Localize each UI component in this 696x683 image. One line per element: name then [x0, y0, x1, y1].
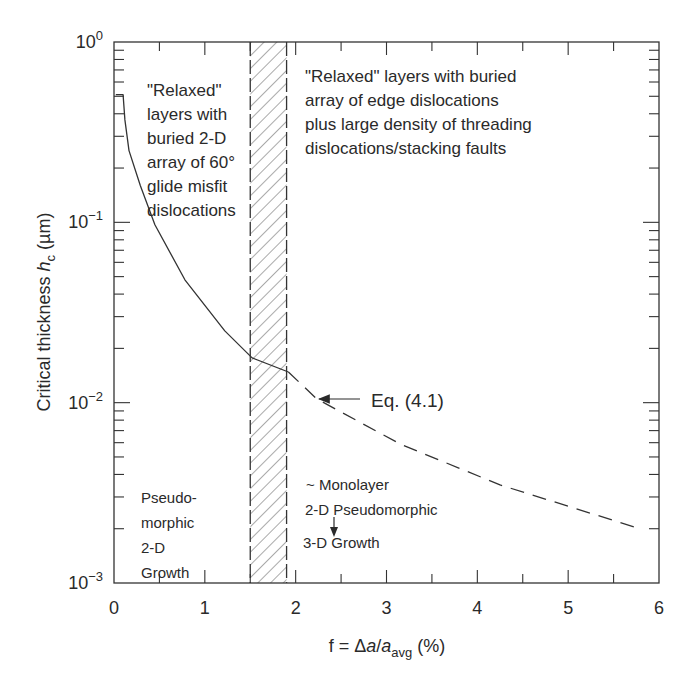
- x-tick-label: 2: [291, 598, 301, 618]
- annotation-line: 2-D: [141, 539, 165, 556]
- svg-text:Eq. (4.1): Eq. (4.1): [371, 390, 444, 411]
- annotation-relaxed-left: "Relaxed"layers withburied 2-Darray of 6…: [147, 81, 236, 220]
- annotation-line: array of 60°: [147, 153, 235, 172]
- y-axis-label: Critical thickness hc (µm): [34, 213, 58, 412]
- annotation-monolayer: ~ Monolayer2-D Pseudomorphic3-D Growth: [303, 476, 438, 551]
- y-tick-label: 10−3: [68, 569, 103, 593]
- annotation-pseudomorphic: Pseudo-morphic2-DGrowth: [141, 489, 197, 581]
- transition-band: [250, 42, 286, 583]
- x-tick-labels: 0123456: [109, 598, 664, 618]
- annotation-line: array of edge dislocations: [305, 91, 499, 110]
- annotation-line: "Relaxed" layers with buried: [305, 67, 516, 86]
- annotation-line: dislocations: [147, 201, 236, 220]
- y-tick-label: 10−1: [68, 208, 103, 232]
- critical-thickness-chart: 0123456 10010−110−210−3 f = Δa/aavg (%) …: [0, 0, 696, 683]
- annotation-line: glide misfit: [147, 177, 228, 196]
- annotation-line: "Relaxed": [147, 81, 221, 100]
- annotation-line: Pseudo-: [141, 489, 197, 506]
- annotation-line: ~ Monolayer: [306, 476, 389, 493]
- x-tick-label: 0: [109, 598, 119, 618]
- annotation-line: morphic: [141, 514, 195, 531]
- x-axis-label: f = Δa/aavg (%): [329, 636, 446, 660]
- annotation-line: layers with: [147, 105, 227, 124]
- annotation-line: 2-D Pseudomorphic: [305, 501, 438, 518]
- y-tick-label: 100: [76, 28, 103, 52]
- annotation-line: plus large density of threading: [305, 115, 532, 134]
- x-tick-label: 6: [654, 598, 664, 618]
- x-tick-label: 3: [381, 598, 391, 618]
- y-tick-label: 10−2: [68, 389, 103, 413]
- annotation-line: dislocations/stacking faults: [305, 139, 506, 158]
- annotation-relaxed-right: "Relaxed" layers with buriedarray of edg…: [305, 67, 532, 158]
- hatched-region: [250, 42, 286, 583]
- annotation-line: 3-D Growth: [303, 534, 380, 551]
- x-tick-label: 5: [563, 598, 573, 618]
- eq-annotation: Eq. (4.1): [319, 390, 444, 411]
- x-tick-label: 1: [200, 598, 210, 618]
- annotation-line: Growth: [141, 564, 189, 581]
- y-tick-labels: 10010−110−210−3: [68, 28, 103, 593]
- x-tick-label: 4: [472, 598, 482, 618]
- annotation-line: buried 2-D: [147, 129, 226, 148]
